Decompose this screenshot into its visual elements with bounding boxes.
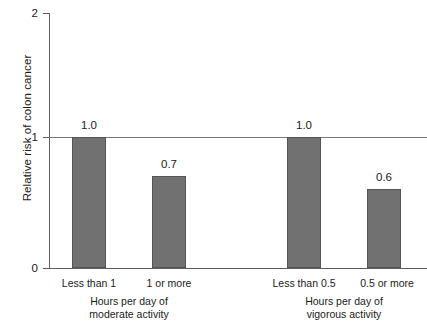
y-tick-2 <box>43 13 49 14</box>
group-caption-vigorous: Hours per day of vigorous activity <box>284 295 404 321</box>
y-tick-label-1: 1 <box>4 132 38 144</box>
y-tick-0 <box>43 268 49 269</box>
y-tick-label-0: 0 <box>4 263 38 275</box>
bar-value-label-2: 0.7 <box>142 159 196 171</box>
bar-value-label-3: 1.0 <box>277 120 331 132</box>
category-label-less-than-0-5: Less than 0.5 <box>262 278 346 289</box>
group-caption-moderate-line1: Hours per day of <box>69 295 189 308</box>
y-tick-1 <box>43 137 49 138</box>
category-label-less-than-1: Less than 1 <box>49 278 129 289</box>
group-caption-moderate: Hours per day of moderate activity <box>69 295 189 321</box>
bar-1-or-more <box>152 176 186 268</box>
bar-less-than-1 <box>72 137 106 268</box>
bar-0-5-or-more <box>367 189 401 268</box>
bar-value-label-4: 0.6 <box>357 172 411 184</box>
bar-value-label-1: 1.0 <box>62 120 116 132</box>
group-caption-moderate-line2: moderate activity <box>69 308 189 321</box>
bar-less-than-0-5 <box>287 137 321 268</box>
category-label-0-5-or-more: 0.5 or more <box>345 278 427 289</box>
bar-chart: Relative risk of colon cancer 2 1 0 1.0 … <box>0 0 427 326</box>
group-caption-vigorous-line1: Hours per day of <box>284 295 404 308</box>
category-label-1-or-more: 1 or more <box>129 278 209 289</box>
x-axis-baseline <box>49 268 427 269</box>
group-caption-vigorous-line2: vigorous activity <box>284 308 404 321</box>
y-axis-line <box>49 13 50 269</box>
y-tick-label-2: 2 <box>4 8 38 20</box>
